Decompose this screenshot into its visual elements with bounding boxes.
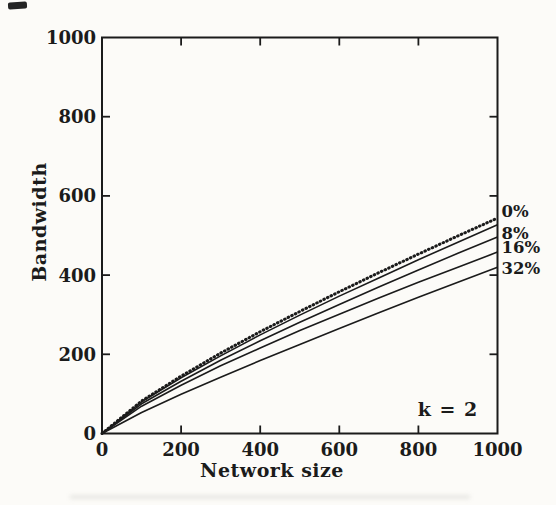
x-tick-label-1000: 1000 [472,439,522,460]
y-tick-label-1000: 1000 [46,27,96,48]
bandwidth-chart: 02004006008001000020040060080010000%8%16… [0,0,556,505]
x-tick-label-600: 600 [321,439,359,460]
y-tick-label-200: 200 [58,344,96,365]
y-tick-label-600: 600 [58,185,96,206]
plot-frame [102,38,498,434]
series-label-16%: 16% [502,238,541,257]
scan-artifact-smudge [70,495,470,499]
series-label-32%: 32% [502,259,541,278]
y-axis-title: Bandwidth [28,162,50,281]
k-annotation: k = 2 [418,398,479,420]
scan-artifact-mark [8,2,27,10]
y-tick-label-800: 800 [58,106,96,127]
y-tick-label-400: 400 [58,265,96,286]
figure: 02004006008001000020040060080010000%8%16… [0,0,556,505]
x-tick-label-200: 200 [162,439,200,460]
series-label-0%: 0% [502,202,529,221]
x-tick-label-800: 800 [400,439,438,460]
y-tick-label-0: 0 [83,423,96,444]
x-tick-label-0: 0 [96,439,109,460]
x-axis-title: Network size [200,459,344,481]
x-tick-label-400: 400 [241,439,279,460]
